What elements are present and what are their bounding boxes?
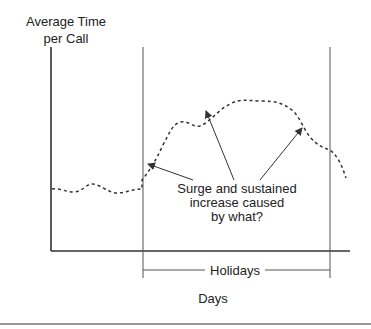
arrow-to-surge xyxy=(148,164,193,180)
annotation-line1: Surge and sustained xyxy=(177,181,296,196)
average-time-curve xyxy=(52,100,346,193)
x-axis-label: Days xyxy=(198,291,228,306)
y-axis-label-line2: per Call xyxy=(44,31,89,46)
arrow-to-decline xyxy=(260,128,302,180)
arrow-to-plateau xyxy=(206,111,234,180)
y-axis-label-line1: Average Time xyxy=(26,14,106,29)
holidays-label: Holidays xyxy=(210,263,260,278)
annotation-line2: increase caused xyxy=(190,195,285,210)
diagram-canvas: Average Time per Call Holidays Days Surg… xyxy=(0,0,371,329)
annotation-line3: by what? xyxy=(211,209,263,224)
